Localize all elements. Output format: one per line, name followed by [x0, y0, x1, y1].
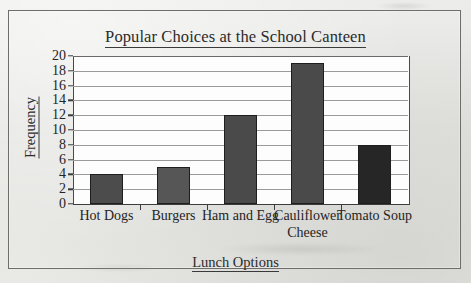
chart-title-text: Popular Choices at the School Canteen — [105, 27, 366, 48]
y-tick-label-14: 14 — [52, 92, 66, 108]
y-tick-label-12: 12 — [52, 107, 66, 123]
y-tick-label-4: 4 — [59, 166, 66, 182]
y-tick-label-10: 10 — [52, 122, 66, 138]
bar — [157, 167, 191, 204]
scanned-page: Popular Choices at the School Canteen Fr… — [0, 0, 471, 283]
bar — [90, 174, 124, 204]
y-axis-title: Frequency — [22, 73, 39, 183]
x-axis-title-text: Lunch Options — [192, 254, 279, 272]
y-tick-label-20: 20 — [52, 48, 66, 64]
bar — [224, 115, 258, 204]
x-axis-category-labels: Hot DogsBurgersHam and EggCauliflower Ch… — [73, 207, 408, 253]
chart-title: Popular Choices at the School Canteen — [9, 27, 462, 47]
plot-wrapper: 02468101214161820 — [73, 56, 408, 204]
bar-series — [73, 56, 408, 204]
chart-outer-frame: Popular Choices at the School Canteen Fr… — [8, 10, 461, 269]
y-tick-label-6: 6 — [59, 152, 66, 168]
y-tick-label-18: 18 — [52, 63, 66, 79]
x-axis-title: Lunch Options — [9, 254, 462, 271]
x-axis-label-tomato-soup: Tomato Soup — [330, 207, 418, 224]
y-tick-label-2: 2 — [59, 181, 66, 197]
y-tick-label-8: 8 — [59, 137, 66, 153]
y-axis-title-text: Frequency — [22, 97, 40, 158]
y-tick-label-16: 16 — [52, 78, 66, 94]
bar — [358, 145, 392, 204]
bar — [291, 63, 325, 204]
